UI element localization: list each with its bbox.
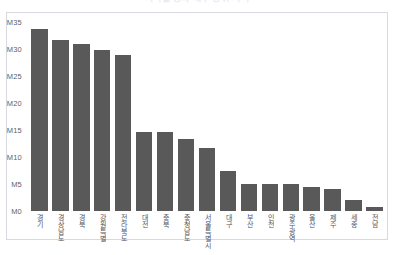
bar[interactable] — [115, 55, 131, 211]
x-axis-tick-8: 서울특별시 — [203, 214, 211, 249]
bar-series — [26, 22, 388, 211]
x-axis-tick-6: 충북 — [161, 214, 169, 228]
bar-slot — [50, 22, 71, 211]
x-axis-tick-9: 대구 — [224, 214, 232, 228]
x-label-slot: 인천 — [259, 213, 280, 253]
x-axis-tick-2: 경북 — [78, 214, 86, 228]
bar[interactable] — [220, 171, 236, 212]
bar-slot — [71, 22, 92, 211]
bar[interactable] — [31, 29, 47, 211]
bar-slot — [343, 22, 364, 211]
bar[interactable] — [52, 40, 68, 211]
plot-area: M35M30M25M20M15M10M5M0 — [26, 22, 388, 211]
bar[interactable] — [157, 132, 173, 211]
bar-slot — [259, 22, 280, 211]
x-label-slot: 울산 — [301, 213, 322, 253]
x-label-slot: 세종 — [343, 213, 364, 253]
x-axis-tick-15: 세종 — [350, 214, 358, 228]
bar-slot — [92, 22, 113, 211]
x-axis-tick-14: 제주 — [329, 214, 337, 228]
bar-slot — [364, 22, 385, 211]
bar-slot — [176, 22, 197, 211]
x-label-slot: 전라북도 — [113, 213, 134, 253]
x-axis-tick-4: 전라북도 — [119, 214, 127, 242]
x-axis-tick-16: 전남 — [371, 214, 379, 228]
bar[interactable] — [262, 184, 278, 211]
bar[interactable] — [345, 200, 361, 211]
bar-slot — [155, 22, 176, 211]
x-label-slot: 서울특별시 — [197, 213, 218, 253]
x-axis-tick-12: 광주광역 — [287, 214, 295, 242]
x-label-slot: 경기 — [29, 213, 50, 253]
x-label-slot: 대전 — [134, 213, 155, 253]
x-label-slot: 전남 — [364, 213, 385, 253]
y-axis-tick-6: M5 — [11, 180, 22, 189]
bar[interactable] — [303, 187, 319, 211]
x-label-slot: 경북 — [71, 213, 92, 253]
bar[interactable] — [241, 184, 257, 211]
x-axis-tick-5: 대전 — [140, 214, 148, 228]
bar[interactable] — [178, 139, 194, 211]
bar[interactable] — [94, 50, 110, 211]
bar[interactable] — [366, 207, 382, 211]
x-axis-tick-11: 인천 — [266, 214, 274, 228]
bar-slot — [217, 22, 238, 211]
chart-title: 지역별 등록 대수 상위 지역 — [0, 0, 394, 4]
y-axis-tick-4: M15 — [7, 126, 22, 135]
bar[interactable] — [199, 148, 215, 211]
x-axis-tick-7: 충청남도 — [182, 214, 190, 242]
y-axis-tick-2: M25 — [7, 72, 22, 81]
bar-slot — [238, 22, 259, 211]
bar-slot — [301, 22, 322, 211]
bar[interactable] — [283, 184, 299, 211]
bar-slot — [197, 22, 218, 211]
x-label-slot: 충청남도 — [176, 213, 197, 253]
bar[interactable] — [324, 189, 340, 211]
y-axis-tick-3: M20 — [7, 99, 22, 108]
x-label-slot: 광주광역 — [280, 213, 301, 253]
bar-slot — [29, 22, 50, 211]
y-axis-tick-5: M10 — [7, 153, 22, 162]
y-axis-tick-7: M0 — [11, 207, 22, 216]
bar-slot — [280, 22, 301, 211]
x-axis-tick-labels: 경기경상남도경북강원특별전라북도대전충북충청남도서울특별시대구부산인천광주광역울… — [26, 213, 388, 253]
bar[interactable] — [136, 132, 152, 211]
chart-page: 지역별 등록 대수 상위 지역 M35M30M25M20M15M10M5M0 경… — [0, 0, 394, 255]
bar-slot — [134, 22, 155, 211]
bar-slot — [322, 22, 343, 211]
x-axis-tick-10: 부산 — [245, 214, 253, 228]
x-axis-tick-0: 경기 — [36, 214, 44, 228]
x-axis-tick-1: 경상남도 — [57, 214, 65, 242]
x-axis-tick-13: 울산 — [308, 214, 316, 228]
y-axis-tick-1: M30 — [7, 45, 22, 54]
x-label-slot: 부산 — [238, 213, 259, 253]
x-axis-tick-3: 강원특별 — [98, 214, 106, 242]
bar[interactable] — [73, 44, 89, 211]
x-label-slot: 충북 — [155, 213, 176, 253]
x-label-slot: 제주 — [322, 213, 343, 253]
x-label-slot: 경상남도 — [50, 213, 71, 253]
bar-slot — [113, 22, 134, 211]
x-label-slot: 강원특별 — [92, 213, 113, 253]
y-axis-tick-0: M35 — [7, 18, 22, 27]
x-label-slot: 대구 — [217, 213, 238, 253]
